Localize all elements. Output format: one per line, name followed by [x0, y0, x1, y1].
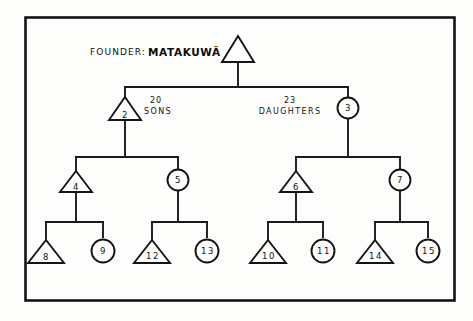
founder-caption-name: MATAKUWÄ	[148, 45, 221, 58]
node-n10[interactable]: 10	[250, 240, 286, 263]
node-n5[interactable]: 5	[168, 170, 189, 191]
node-n15[interactable]: 15	[417, 240, 440, 263]
node-label: 14	[369, 251, 383, 261]
node-n2[interactable]: 2	[109, 97, 141, 120]
kinship-diagram: 2 3 4 5 6 7 8 9	[0, 0, 473, 321]
node-label: 7	[397, 175, 403, 185]
node-n14[interactable]: 14	[357, 240, 393, 263]
sons-branch-label: 20 SONS	[144, 96, 172, 116]
node-label: 10	[262, 251, 276, 261]
node-label: 13	[201, 246, 215, 256]
node-label: 11	[317, 246, 331, 256]
daughters-count: 23	[284, 96, 296, 105]
founder-caption-prefix: FOUNDER:	[90, 47, 146, 57]
sons-word: SONS	[144, 107, 172, 116]
node-n13[interactable]: 13	[196, 240, 219, 263]
node-n11[interactable]: 11	[312, 240, 335, 263]
node-n4[interactable]: 4	[60, 171, 92, 192]
node-label: 15	[422, 246, 436, 256]
node-n6[interactable]: 6	[280, 171, 312, 192]
daughters-word: DAUGHTERS	[259, 107, 322, 116]
node-label: 5	[175, 175, 181, 185]
edge-group	[46, 62, 428, 240]
node-label: 3	[345, 103, 351, 113]
node-n7[interactable]: 7	[390, 170, 411, 191]
node-n3[interactable]: 3	[338, 98, 359, 119]
node-label: 4	[73, 182, 79, 192]
node-founder[interactable]	[222, 36, 254, 62]
founder-caption: FOUNDER: MATAKUWÄ	[90, 45, 221, 58]
triangle-icon	[222, 36, 254, 62]
node-label: 12	[146, 251, 160, 261]
node-label: 6	[293, 182, 299, 192]
daughters-branch-label: 23 DAUGHTERS	[259, 96, 322, 116]
node-n9[interactable]: 9	[92, 240, 115, 263]
node-n8[interactable]: 8	[28, 240, 64, 263]
figure-page: 2 3 4 5 6 7 8 9	[0, 0, 473, 321]
node-label: 8	[43, 252, 49, 262]
sons-count: 20	[150, 96, 162, 105]
node-label: 9	[100, 246, 106, 256]
node-n12[interactable]: 12	[134, 240, 170, 263]
node-label: 2	[122, 110, 128, 120]
